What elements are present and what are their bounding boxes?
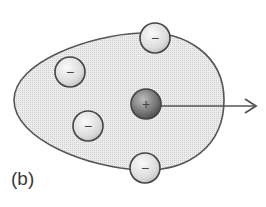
- minus-sign: −: [151, 30, 159, 46]
- negative-charge: −: [55, 57, 85, 87]
- figure-label: (b): [11, 168, 34, 190]
- minus-sign: −: [141, 160, 149, 176]
- diagram-canvas: −−+−−: [0, 0, 266, 207]
- negative-charge: −: [73, 111, 103, 141]
- minus-sign: −: [84, 118, 92, 134]
- positive-charge: +: [131, 89, 161, 119]
- minus-sign: −: [66, 64, 74, 80]
- negative-charge: −: [140, 23, 170, 53]
- egg-shaped-body: [14, 33, 224, 170]
- negative-charge: −: [130, 153, 160, 183]
- plus-sign: +: [142, 96, 150, 112]
